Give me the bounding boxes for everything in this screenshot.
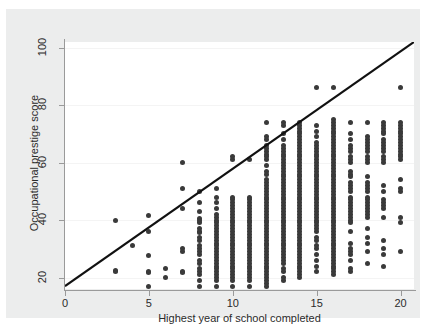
y-tick-mark	[59, 220, 64, 221]
x-tick-mark	[65, 291, 66, 296]
y-tick-mark	[59, 163, 64, 164]
x-tick-mark	[233, 291, 234, 296]
x-tick-label: 20	[386, 297, 416, 309]
y-tick-mark	[59, 278, 64, 279]
x-tick-label: 15	[302, 297, 332, 309]
y-tick-label: 80	[36, 91, 48, 117]
plot-area	[65, 42, 414, 289]
fit-line	[65, 42, 414, 289]
y-tick-label: 60	[36, 149, 48, 175]
graph-region: Occupational prestige score 20406080100 …	[6, 9, 420, 318]
x-tick-mark	[317, 291, 318, 296]
y-tick-mark	[59, 105, 64, 106]
y-tick-label: 20	[36, 264, 48, 290]
scatter-plot-screenshot: Occupational prestige score 20406080100 …	[0, 0, 426, 327]
y-tick-label: 40	[36, 206, 48, 232]
y-tick-label: 100	[36, 34, 48, 60]
x-tick-label: 5	[134, 297, 164, 309]
fit-line-segment	[65, 42, 414, 286]
y-tick-mark	[59, 48, 64, 49]
x-tick-label: 10	[218, 297, 248, 309]
x-axis-title: Highest year of school completed	[65, 312, 414, 324]
x-tick-mark	[401, 291, 402, 296]
x-tick-label: 0	[50, 297, 80, 309]
x-axis-line	[64, 290, 416, 291]
x-tick-mark	[149, 291, 150, 296]
